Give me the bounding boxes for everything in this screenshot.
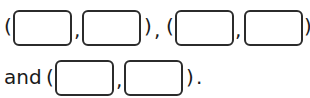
period: . <box>196 67 202 87</box>
comma: , <box>74 20 80 40</box>
close-paren: ) <box>144 16 152 36</box>
close-paren: ) <box>304 16 310 36</box>
answer-box-2[interactable] <box>82 10 141 46</box>
close-paren: ) <box>186 67 194 87</box>
answer-box-5[interactable] <box>55 60 114 96</box>
comma: , <box>235 20 241 40</box>
comma: , <box>154 20 160 40</box>
answer-box-6[interactable] <box>124 60 183 96</box>
open-paren: ( <box>166 16 174 36</box>
comma: , <box>116 70 122 90</box>
answer-box-3[interactable] <box>175 10 234 46</box>
answer-box-1[interactable] <box>13 10 72 46</box>
answer-box-4[interactable] <box>244 10 303 46</box>
open-paren: ( <box>46 67 54 87</box>
and-label: and <box>4 67 42 87</box>
open-paren: ( <box>4 16 12 36</box>
